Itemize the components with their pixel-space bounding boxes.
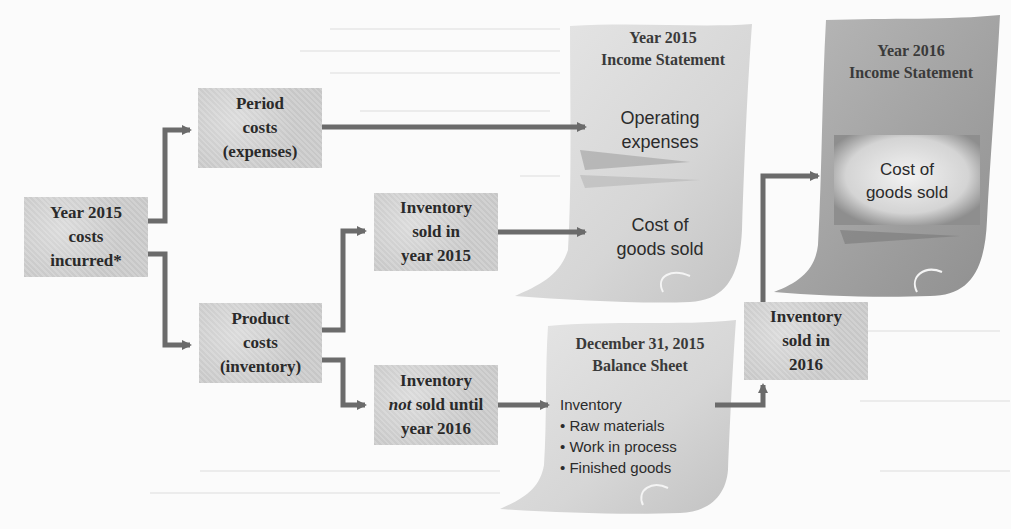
cogs-2016-label: Cost of goods sold xyxy=(840,158,974,204)
title-line: Year 2015 xyxy=(578,27,748,49)
product-costs-box: Product costs (inventory) xyxy=(199,303,322,383)
balance-sheet-title: December 31, 2015 Balance Sheet xyxy=(550,333,730,377)
box-line: (expenses) xyxy=(223,140,298,164)
label-line: goods sold xyxy=(590,237,730,261)
box-line: Inventory xyxy=(400,369,472,393)
inventory-not-sold-box: Inventory not sold until year 2016 xyxy=(374,365,498,445)
label-line: expenses xyxy=(590,130,730,154)
box-line: 2016 xyxy=(789,353,823,377)
title-line: Income Statement xyxy=(826,62,996,84)
label-line: Operating xyxy=(590,106,730,130)
label-line: Cost of xyxy=(590,213,730,237)
box-line: sold in xyxy=(782,329,830,353)
arrow-product-to-sold-2015 xyxy=(322,231,365,330)
box-line: sold in xyxy=(412,220,460,244)
arrow-product-to-not-sold xyxy=(322,360,365,405)
income-2015-title: Year 2015 Income Statement xyxy=(578,27,748,71)
period-costs-box: Period costs (expenses) xyxy=(198,88,322,168)
title-line: Income Statement xyxy=(578,49,748,71)
income-2016-title: Year 2016 Income Statement xyxy=(826,40,996,84)
title-line: Year 2016 xyxy=(826,40,996,62)
title-line: December 31, 2015 xyxy=(550,333,730,355)
box-line: (inventory) xyxy=(220,355,301,379)
operating-expenses-label: Operating expenses xyxy=(590,106,730,154)
box-line: Inventory xyxy=(400,196,472,220)
box-line: Inventory xyxy=(770,305,842,329)
arrow-costs-to-product xyxy=(147,254,190,345)
inventory-sold-2015-box: Inventory sold in year 2015 xyxy=(374,193,498,271)
box-line: Period xyxy=(236,92,284,116)
box-line: costs xyxy=(243,116,278,140)
bullet-finished-goods: • Finished goods xyxy=(560,457,677,478)
title-line: Balance Sheet xyxy=(550,355,730,377)
box-line: Product xyxy=(231,307,289,331)
box-line: Year 2015 xyxy=(50,201,122,225)
arrow-costs-to-period xyxy=(147,130,190,221)
box-line: year 2015 xyxy=(401,244,471,268)
emphasis-not: not xyxy=(389,395,412,414)
label-line: Cost of xyxy=(840,158,974,181)
inventory-sold-2016-box: Inventory sold in 2016 xyxy=(744,302,868,380)
inventory-heading: Inventory xyxy=(560,394,677,415)
box-line: year 2016 xyxy=(401,417,471,441)
costs-incurred-box: Year 2015 costs incurred* xyxy=(24,197,148,277)
cogs-2015-label: Cost of goods sold xyxy=(590,213,730,261)
box-line: costs xyxy=(69,225,104,249)
box-line-rest: sold until xyxy=(416,395,484,414)
balance-sheet-inventory-list: Inventory • Raw materials • Work in proc… xyxy=(560,394,677,478)
box-line: incurred* xyxy=(50,249,121,273)
bullet-raw-materials: • Raw materials xyxy=(560,415,677,436)
box-line: costs xyxy=(243,331,278,355)
label-line: goods sold xyxy=(840,181,974,204)
bullet-work-in-process: • Work in process xyxy=(560,436,677,457)
box-line: not sold until xyxy=(389,393,484,417)
